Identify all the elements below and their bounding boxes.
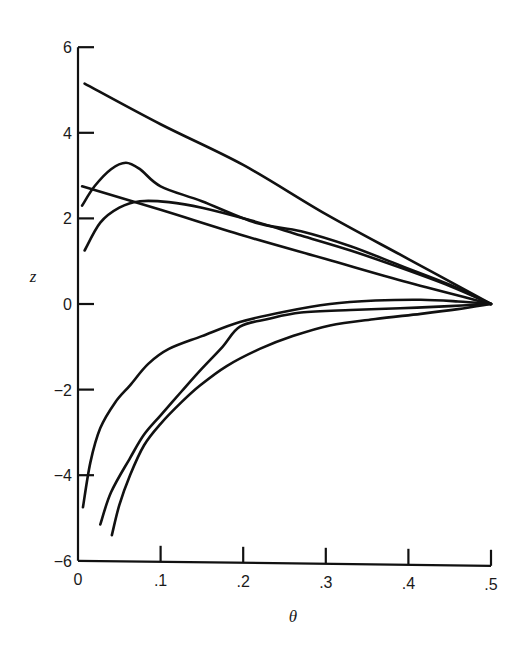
curve-3-straight	[82, 186, 491, 304]
curve-2-peaked	[82, 163, 491, 304]
curve-5-negative-a	[83, 300, 491, 508]
curve-1-upper-straight	[85, 84, 491, 304]
y-tick-label: 2	[63, 210, 72, 227]
y-tick-label: −4	[54, 467, 72, 484]
curve-6-negative-b	[100, 304, 491, 524]
x-tick-label: .5	[484, 576, 497, 593]
x-tick-label: .4	[402, 575, 415, 592]
plot-curves	[82, 84, 491, 536]
y-tick-label: −2	[54, 382, 72, 399]
y-tick-label: 0	[63, 296, 72, 313]
y-tick-label: 4	[63, 125, 72, 142]
curve-7-negative-c	[112, 304, 491, 535]
y-axis-label: z	[29, 267, 37, 286]
y-tick-label: −6	[54, 553, 72, 570]
x-axis-label: θ	[289, 607, 297, 626]
x-tick-label: 0	[74, 571, 83, 588]
x-axis-line	[78, 561, 491, 566]
chart-canvas: 6420−2−4−60.1.2.3.4.5 θ z	[0, 0, 529, 659]
x-tick-label: .2	[237, 573, 250, 590]
x-tick-label: .1	[154, 572, 167, 589]
y-tick-label: 6	[63, 39, 72, 56]
x-tick-label: .3	[319, 574, 332, 591]
